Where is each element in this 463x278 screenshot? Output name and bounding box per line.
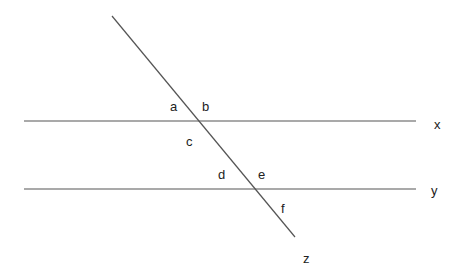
angle-label-c: c [186,134,193,149]
angle-label-f: f [281,201,285,216]
line-label-x: x [434,117,441,132]
angle-label-b: b [202,99,209,114]
line-label-z: z [303,251,310,266]
parallel-lines-transversal-diagram: a b c d e f x y z [0,0,463,278]
angle-label-e: e [258,167,265,182]
line-label-y: y [431,183,438,198]
angle-label-d: d [218,167,225,182]
angle-label-a: a [170,99,178,114]
transversal-z [112,16,295,237]
